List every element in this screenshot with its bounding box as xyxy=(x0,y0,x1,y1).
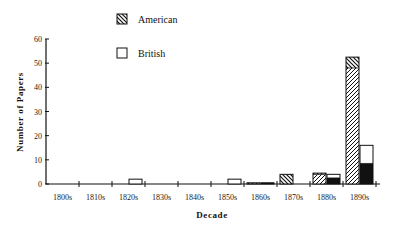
x-tick-label: 1800s xyxy=(53,193,72,202)
bar-segment-american xyxy=(346,68,359,184)
y-axis-title: Number of Papers xyxy=(15,72,25,152)
bar-segment-british xyxy=(327,174,340,178)
y-tick-label: 50 xyxy=(34,59,42,68)
bars xyxy=(129,57,373,184)
y-tick-label: 40 xyxy=(34,83,42,92)
y-axis: 0102030405060 xyxy=(34,35,49,189)
y-tick-label: 30 xyxy=(34,108,42,117)
x-tick-label: 1870s xyxy=(284,193,303,202)
legend: American British xyxy=(117,14,177,59)
bar-segment-british xyxy=(360,145,373,163)
bar-segment-american xyxy=(280,174,293,184)
bar-segment-british xyxy=(327,178,340,184)
y-tick-label: 60 xyxy=(34,35,42,44)
bar-segment-british xyxy=(360,163,373,184)
bar-segment-american xyxy=(346,57,359,68)
x-tick-label: 1880s xyxy=(317,193,336,202)
x-tick-label: 1850s xyxy=(218,193,237,202)
legend-label-american: American xyxy=(138,14,177,25)
x-tick-label: 1830s xyxy=(152,193,171,202)
x-axis-title: Decade xyxy=(196,210,228,220)
bar-chart: American British 0102030405060 1800s1810… xyxy=(0,0,396,227)
x-tick-label: 1840s xyxy=(185,193,204,202)
bar-segment-american xyxy=(313,174,326,184)
y-tick-label: 10 xyxy=(34,156,42,165)
legend-swatch-british xyxy=(117,48,127,58)
bar-segment-british xyxy=(129,179,142,184)
y-tick-label: 20 xyxy=(34,132,42,141)
bar-segment-british xyxy=(228,179,241,184)
x-tick-label: 1820s xyxy=(119,193,138,202)
x-tick-label: 1810s xyxy=(86,193,105,202)
y-tick-label: 0 xyxy=(38,180,42,189)
x-tick-label: 1890s xyxy=(350,193,369,202)
legend-swatch-american xyxy=(117,14,127,24)
legend-label-british: British xyxy=(138,48,165,59)
x-tick-label: 1860s xyxy=(251,193,270,202)
